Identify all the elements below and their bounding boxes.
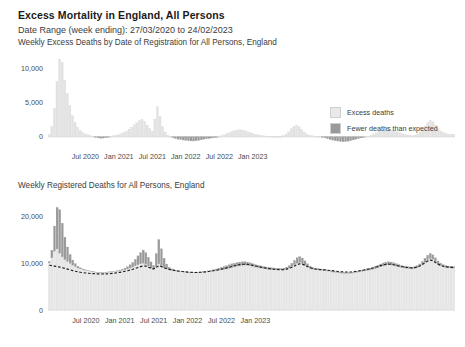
bar-segment-covid-not-mentioned — [95, 272, 97, 310]
bar-segment-covid-not-mentioned — [64, 260, 66, 310]
bar — [249, 133, 251, 137]
bar — [278, 137, 280, 138]
bar — [66, 93, 68, 137]
bar — [151, 131, 153, 137]
bar-segment-covid-not-mentioned — [380, 267, 382, 310]
bar-segment-covid-not-mentioned — [103, 272, 105, 310]
bar — [162, 127, 164, 137]
bar-segment-covid-not-mentioned — [82, 270, 84, 310]
bar-segment-covid-not-mentioned — [354, 273, 356, 310]
bar — [131, 127, 133, 137]
bar — [244, 131, 246, 137]
bar — [79, 131, 81, 137]
bar — [316, 136, 318, 137]
bar-segment-covid-not-mentioned — [127, 269, 129, 310]
bar-segment-covid-not-mentioned — [304, 265, 306, 310]
y-axis-tick-label: 10,000 — [21, 64, 43, 73]
bar — [164, 132, 166, 137]
bar-segment-covid-mentioned — [56, 207, 58, 249]
bar-segment-covid-not-mentioned — [113, 272, 115, 311]
bar — [48, 134, 50, 136]
bar-segment-covid-not-mentioned — [330, 272, 332, 310]
bar-segment-covid-not-mentioned — [359, 272, 361, 310]
bar-segment-covid-mentioned — [69, 254, 71, 263]
bar — [445, 134, 447, 137]
bar-segment-covid-not-mentioned — [93, 272, 95, 310]
bar — [280, 136, 282, 137]
bar — [241, 130, 243, 137]
bar-segment-covid-mentioned — [348, 273, 350, 274]
bar-segment-covid-mentioned — [160, 249, 162, 266]
bar — [308, 135, 310, 137]
x-axis-tick-label: Jan 2022 — [171, 152, 201, 161]
bar — [180, 137, 182, 140]
bar-segment-covid-not-mentioned — [61, 257, 63, 310]
bar-segment-covid-mentioned — [51, 250, 53, 257]
bar — [257, 135, 259, 137]
legend-item[interactable]: Fewer deaths than expected — [330, 123, 438, 134]
bar-segment-covid-not-mentioned — [327, 271, 329, 310]
bar-segment-covid-mentioned — [121, 269, 123, 270]
bar-segment-covid-not-mentioned — [312, 269, 314, 310]
bar — [71, 116, 73, 137]
bar-segment-covid-not-mentioned — [257, 268, 259, 310]
bar-segment-covid-not-mentioned — [390, 265, 392, 310]
bar — [265, 136, 267, 137]
bar — [205, 137, 207, 139]
bar-segment-covid-mentioned — [48, 261, 50, 262]
bar-segment-covid-mentioned — [124, 268, 126, 270]
bar-segment-covid-not-mentioned — [202, 272, 204, 310]
bar-segment-covid-mentioned — [434, 258, 436, 262]
legend-label: Excess deaths — [347, 107, 394, 118]
bar-segment-covid-mentioned — [80, 268, 82, 269]
date-range-label: Date Range (week ending): 27/03/2020 to … — [18, 24, 465, 37]
bar — [141, 119, 143, 136]
bar-segment-covid-not-mentioned — [427, 260, 429, 310]
bar-segment-covid-mentioned — [132, 262, 134, 267]
bar — [95, 137, 97, 138]
bar-segment-covid-mentioned — [77, 266, 79, 268]
bar-segment-covid-not-mentioned — [77, 268, 79, 310]
x-axis-tick-label: Jan 2023 — [241, 316, 271, 325]
bar-segment-covid-mentioned — [119, 270, 121, 271]
bar-segment-covid-not-mentioned — [168, 270, 170, 310]
bar-segment-covid-not-mentioned — [249, 266, 251, 310]
bar — [200, 137, 202, 140]
bar-segment-covid-not-mentioned — [382, 266, 384, 310]
bar — [301, 129, 303, 137]
bar-segment-covid-not-mentioned — [447, 268, 449, 310]
legend-item[interactable]: Excess deaths — [330, 107, 438, 118]
bar-segment-covid-not-mentioned — [189, 272, 191, 310]
bar-segment-covid-not-mentioned — [262, 268, 264, 310]
bar-segment-covid-not-mentioned — [90, 271, 92, 310]
bar-segment-covid-not-mentioned — [450, 268, 452, 310]
bar-segment-covid-not-mentioned — [140, 264, 142, 310]
bar-segment-covid-mentioned — [72, 260, 74, 265]
bar-segment-covid-not-mentioned — [260, 268, 262, 310]
bar-segment-covid-mentioned — [74, 264, 76, 267]
bar-segment-covid-not-mentioned — [442, 267, 444, 310]
bar — [100, 137, 102, 139]
bar — [120, 134, 122, 137]
bar — [198, 137, 200, 141]
bar-segment-covid-mentioned — [67, 247, 69, 261]
bar-segment-covid-not-mentioned — [291, 267, 293, 310]
bar — [187, 137, 189, 141]
bar-segment-covid-not-mentioned — [48, 263, 50, 310]
bar-segment-covid-not-mentioned — [356, 272, 358, 310]
bar-segment-covid-not-mentioned — [343, 273, 345, 310]
bar-segment-covid-not-mentioned — [307, 267, 309, 310]
bar — [182, 137, 184, 140]
bar-segment-covid-not-mentioned — [314, 270, 316, 310]
chart-2-svg: 010,00020,000Jul 2020Jan 2021Jul 2021Jan… — [0, 192, 465, 332]
bar-segment-covid-mentioned — [424, 258, 426, 262]
bar-segment-covid-not-mentioned — [220, 270, 222, 310]
bar-segment-covid-mentioned — [129, 265, 131, 268]
bar-segment-covid-not-mentioned — [406, 268, 408, 310]
bar-segment-covid-not-mentioned — [56, 249, 58, 310]
bar-segment-covid-mentioned — [427, 255, 429, 260]
bar-segment-covid-not-mentioned — [106, 272, 108, 310]
bar — [319, 137, 321, 138]
bar-segment-covid-not-mentioned — [176, 271, 178, 310]
bar — [442, 133, 444, 137]
